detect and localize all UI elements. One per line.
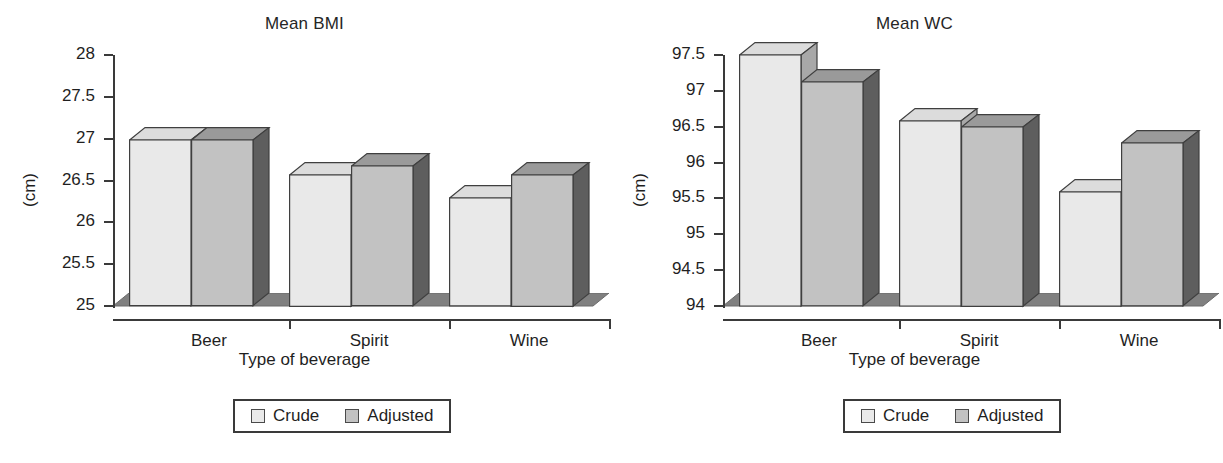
legend-label: Adjusted <box>367 406 433 426</box>
y-axis-tick-label: 95 <box>613 223 705 243</box>
y-axis-tick <box>714 54 723 56</box>
y-axis-tick <box>714 305 723 307</box>
bar-3d <box>191 127 271 308</box>
y-axis-tick-label: 27.5 <box>3 86 95 106</box>
y-axis-line <box>723 55 725 308</box>
y-axis-tick <box>104 305 113 307</box>
y-axis-label: (cm) <box>20 170 40 210</box>
x-axis-tick <box>899 319 901 329</box>
y-axis-tick-label: 25.5 <box>3 253 95 273</box>
y-axis-label: (cm) <box>630 170 650 210</box>
y-axis-tick-label: 97.5 <box>613 44 705 64</box>
chart-title: Mean BMI <box>0 14 609 34</box>
legend-label: Crude <box>883 406 929 426</box>
legend-entry[interactable]: Adjusted <box>955 406 1043 426</box>
y-axis-tick-label: 95.5 <box>613 187 705 207</box>
x-axis-category-label: Spirit <box>289 331 449 351</box>
y-axis-tick-label: 27 <box>3 128 95 148</box>
x-axis-tick <box>289 319 291 329</box>
y-axis-tick <box>104 263 113 265</box>
y-axis-tick-label: 96.5 <box>613 116 705 136</box>
adjusted-swatch-icon <box>955 409 969 423</box>
y-axis-tick <box>714 126 723 128</box>
x-axis-category-label: Spirit <box>899 331 1059 351</box>
adjusted-swatch-icon <box>345 409 359 423</box>
y-axis-line <box>113 55 115 308</box>
y-axis-tick-label: 97 <box>613 80 705 100</box>
chart-title: Mean WC <box>610 14 1219 34</box>
bar-3d <box>1121 130 1201 308</box>
x-axis-line <box>113 319 609 321</box>
y-axis-tick <box>104 54 113 56</box>
y-axis-tick <box>104 221 113 223</box>
y-axis-tick-label: 96 <box>613 152 705 172</box>
x-axis-tick <box>1219 319 1221 329</box>
y-axis-tick-label: 26.5 <box>3 170 95 190</box>
chart-panel-wc: Mean WC 9494.59595.59696.59797.5BeerSpir… <box>610 0 1219 463</box>
y-axis-tick <box>104 138 113 140</box>
y-axis-tick-label: 25 <box>3 295 95 315</box>
bar-3d <box>511 162 591 308</box>
y-axis-tick <box>714 197 723 199</box>
x-axis-tick <box>1059 319 1061 329</box>
legend: CrudeAdjusted <box>233 399 451 433</box>
legend-label: Crude <box>273 406 319 426</box>
y-axis-tick-label: 28 <box>3 44 95 64</box>
x-axis-label: Type of beverage <box>610 350 1219 370</box>
x-axis-category-label: Beer <box>739 331 899 351</box>
bar-3d <box>961 114 1041 308</box>
y-axis-tick <box>104 180 113 182</box>
legend-entry[interactable]: Crude <box>251 406 319 426</box>
chart-panel-bmi: Mean BMI 2525.52626.52727.528BeerSpiritW… <box>0 0 609 463</box>
legend-label: Adjusted <box>977 406 1043 426</box>
y-axis-tick <box>104 96 113 98</box>
y-axis-tick <box>714 90 723 92</box>
y-axis-tick <box>714 233 723 235</box>
y-axis-tick-label: 94 <box>613 295 705 315</box>
legend-entry[interactable]: Crude <box>861 406 929 426</box>
x-axis-label: Type of beverage <box>0 350 609 370</box>
y-axis-tick-label: 94.5 <box>613 259 705 279</box>
bar-3d <box>351 153 431 308</box>
crude-swatch-icon <box>861 409 875 423</box>
legend: CrudeAdjusted <box>843 399 1061 433</box>
x-axis-line <box>723 319 1219 321</box>
x-axis-category-label: Beer <box>129 331 289 351</box>
crude-swatch-icon <box>251 409 265 423</box>
x-axis-category-label: Wine <box>1059 331 1219 351</box>
y-axis-tick-label: 26 <box>3 211 95 231</box>
x-axis-category-label: Wine <box>449 331 609 351</box>
bar-3d <box>801 69 881 308</box>
legend-entry[interactable]: Adjusted <box>345 406 433 426</box>
y-axis-tick <box>714 162 723 164</box>
y-axis-tick <box>714 269 723 271</box>
x-axis-tick <box>449 319 451 329</box>
